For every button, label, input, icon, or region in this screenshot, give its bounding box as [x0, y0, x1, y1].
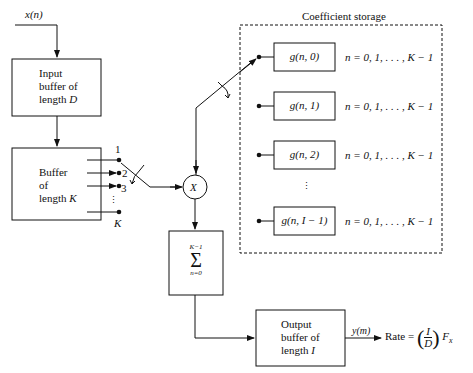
- input-buffer-line2: buffer of: [39, 80, 78, 93]
- rate-sampling-subscript: x: [449, 336, 453, 345]
- coefficient-storage-title: Coefficient storage: [302, 10, 386, 23]
- tap-label-1: 1: [115, 143, 121, 156]
- output-buffer-label: Output buffer of length I: [281, 318, 320, 357]
- coefficient-range-1: n = 0, 1, . . . , K − 1: [345, 100, 433, 113]
- summation-lower-limit: n=0: [169, 269, 223, 277]
- input-signal-label: x(n): [25, 8, 43, 21]
- tap-label-k: K: [114, 217, 121, 230]
- output-buffer-length-text: length: [281, 344, 311, 356]
- right-paren: ): [432, 325, 439, 350]
- input-buffer-length-text: length: [39, 93, 69, 105]
- output-buffer-length-var: I: [311, 344, 315, 356]
- tap-label-2: 2: [122, 167, 128, 180]
- tap-label-3: 3: [121, 182, 127, 195]
- input-buffer-line3: length D: [39, 93, 78, 106]
- rate-fraction: ID: [424, 326, 432, 349]
- rate-equation: Rate = (ID) Fx: [385, 326, 453, 349]
- coefficient-range-last: n = 0, 1, . . . , K − 1: [345, 215, 433, 228]
- output-signal-label: y(m): [352, 324, 370, 337]
- summation-block: K−1 Σ n=0: [169, 243, 223, 277]
- coefficient-g0: g(n, 0): [274, 50, 335, 62]
- input-buffer-line1: Input: [39, 67, 78, 80]
- coefficient-range-2: n = 0, 1, . . . , K − 1: [345, 149, 433, 162]
- input-buffer-label: Input buffer of length D: [39, 67, 78, 106]
- coefficient-range-0: n = 0, 1, . . . , K − 1: [345, 51, 433, 64]
- coefficient-g-last: g(n, I − 1): [274, 214, 335, 226]
- k-buffer-line1: Buffer: [39, 166, 77, 179]
- coefficient-ellipsis: ⋮: [302, 180, 311, 193]
- k-buffer-line2: of: [39, 179, 77, 192]
- output-buffer-line1: Output: [281, 318, 320, 331]
- tap-ellipsis: ⋮: [109, 194, 118, 207]
- multiplier-label: X: [190, 181, 197, 194]
- rate-sampling-frequency: F: [442, 330, 449, 342]
- rate-denominator: D: [424, 338, 432, 349]
- output-buffer-line3: length I: [281, 344, 320, 357]
- summation-symbol: Σ: [169, 251, 223, 269]
- k-buffer-label: Buffer of length K: [39, 166, 77, 205]
- k-buffer-length-text: length: [39, 192, 69, 204]
- coefficient-g2: g(n, 2): [274, 148, 335, 160]
- input-buffer-length-var: D: [69, 93, 77, 105]
- k-buffer-length-var: K: [69, 192, 76, 204]
- k-buffer-line3: length K: [39, 192, 77, 205]
- rate-prefix: Rate =: [385, 330, 414, 342]
- output-buffer-line2: buffer of: [281, 331, 320, 344]
- coefficient-g1: g(n, 1): [274, 99, 335, 111]
